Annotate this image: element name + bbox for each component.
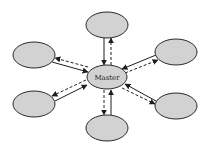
node-lower-right (155, 93, 197, 119)
edge-top (104, 38, 111, 65)
master-label: Master (94, 74, 120, 82)
node-lower-left (13, 91, 55, 117)
node-upper-right (155, 39, 197, 65)
edge-upper-right (122, 55, 158, 73)
edge-upper-left (52, 58, 88, 72)
edge-bottom (104, 90, 111, 115)
node-upper-left (13, 42, 55, 68)
star-topology-diagram: Master (0, 0, 206, 153)
node-top (86, 12, 128, 38)
edge-lower-left (52, 80, 87, 101)
edge-lower-right (122, 84, 156, 104)
node-bottom (86, 115, 128, 141)
